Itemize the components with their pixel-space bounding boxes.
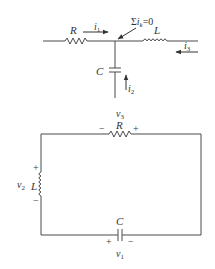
label-r-bottom: R [115,119,123,131]
label-l-bottom: L [30,180,37,192]
kcl-pointer-arrow-icon [118,28,136,39]
resistor-minus-sign: − [99,123,105,134]
label-i3: i3 [184,40,191,53]
inductor-plus-sign: + [33,162,39,173]
capacitor-plus-sign: + [106,236,112,247]
label-kcl: Σik=0 [131,16,153,29]
kcl-circuit: R L C i1 i3 i2 Σik=0 [43,16,198,98]
label-c-bottom: C [116,215,124,227]
inductor-l-top-icon [143,39,167,41]
label-v2: v2 [17,179,25,192]
kvl-circuit: v3 R − + + − L v2 C + − v1 [17,108,201,261]
inductor-l-bottom-icon [39,172,41,196]
inductor-minus-sign: − [33,195,39,206]
resistor-plus-sign: + [133,123,139,134]
circuit-figure: R L C i1 i3 i2 Σik=0 v3 R [0,0,215,269]
label-v1: v1 [116,248,124,261]
resistor-r-top-icon [65,38,87,44]
label-i2: i2 [128,83,135,96]
label-l-top: L [153,24,160,36]
resistor-r-bottom-icon [109,131,131,137]
capacitor-minus-sign: − [128,236,134,247]
label-r-top: R [69,24,77,36]
label-c-top: C [96,65,104,77]
